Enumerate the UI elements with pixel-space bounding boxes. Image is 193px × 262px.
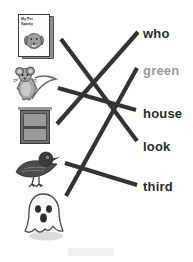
connector-line-window-to-who[interactable] [57,32,138,124]
word-third[interactable]: third [143,180,173,193]
book-title-line-1: My Pet [21,17,47,21]
word-house[interactable]: house [143,107,182,120]
window-mullion [23,126,47,129]
connector-line-ghost-to-green[interactable] [66,68,137,196]
mouse-picture[interactable] [12,66,58,102]
bird-picture[interactable] [12,150,62,190]
bird-illustration-icon [12,150,62,190]
book-front-cover: My Pet Sparky [18,14,50,57]
dog-illustration-icon [22,28,46,52]
book-title-line-2: Sparky [21,22,47,26]
word-green[interactable]: green [143,64,179,77]
ghost-illustration-icon [20,190,68,242]
book-picture[interactable]: My Pet Sparky [18,14,54,58]
window-picture[interactable] [20,110,50,144]
worksheet-page: My Pet Sparky [0,0,193,262]
mouse-illustration-icon [12,66,58,102]
word-look[interactable]: look [143,140,171,153]
ghost-picture[interactable] [20,190,68,242]
scan-smudge [68,248,114,256]
word-who[interactable]: who [143,27,170,40]
